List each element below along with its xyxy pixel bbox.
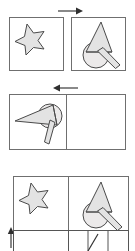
row-2-graphics	[0, 78, 135, 158]
panel-1-2[interactable]	[72, 18, 126, 71]
panel-1-1[interactable]	[10, 18, 64, 71]
row-2	[0, 78, 135, 158]
canvas-stage	[0, 0, 135, 251]
row-3	[0, 170, 135, 251]
panel-3-1[interactable]	[14, 177, 69, 231]
panel-3-2[interactable]	[69, 177, 129, 231]
row-3-graphics	[0, 170, 135, 251]
transition-arrow-right	[58, 8, 83, 15]
panel-2-2[interactable]	[67, 95, 126, 150]
transition-arrow-left	[53, 85, 78, 92]
panel-2-1[interactable]	[10, 95, 67, 150]
partial-grid-bottom[interactable]	[14, 231, 129, 251]
row-1-graphics	[0, 0, 135, 78]
row-1	[0, 0, 135, 78]
